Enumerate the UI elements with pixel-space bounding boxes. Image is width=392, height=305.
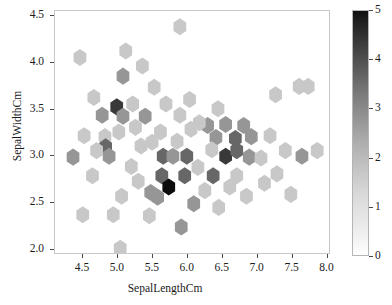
hex-bin	[243, 149, 256, 166]
hex-bin	[114, 240, 127, 253]
x-tick-mark	[257, 254, 258, 258]
hex-bin	[96, 107, 109, 124]
hex-bin	[180, 148, 193, 165]
colorbar-tick-label: 5	[375, 4, 381, 16]
hex-bin	[183, 91, 196, 108]
hex-bin	[173, 107, 186, 124]
hex-bin	[126, 96, 139, 113]
x-tick-mark	[152, 254, 153, 258]
hexbin-figure: 4.55.05.56.06.57.07.58.0 2.02.53.03.54.0…	[0, 0, 392, 305]
hex-bin	[219, 148, 232, 165]
hex-bin	[171, 133, 184, 150]
y-tick-mark	[50, 62, 54, 63]
x-tick-mark	[222, 254, 223, 258]
x-tick-mark	[82, 254, 83, 258]
hex-bin	[78, 127, 91, 144]
colorbar-tick-mark	[369, 158, 373, 159]
y-tick-mark	[50, 202, 54, 203]
y-tick-mark	[50, 249, 54, 250]
y-tick-label: 2.0	[10, 242, 44, 254]
y-axis-label: SepalWidthCm	[11, 66, 23, 186]
hex-bin	[178, 167, 191, 184]
x-tick-mark	[187, 254, 188, 258]
hex-bin	[136, 57, 149, 74]
hex-bin	[258, 175, 271, 192]
colorbar-tick-mark	[369, 10, 373, 11]
hex-bin	[148, 79, 161, 96]
hex-bin	[119, 42, 132, 59]
hex-bin	[212, 100, 225, 117]
hex-bin	[207, 167, 220, 184]
hex-bin	[74, 49, 87, 66]
plot-area	[54, 10, 330, 254]
hex-bin	[175, 218, 188, 235]
hex-bin	[212, 199, 225, 216]
hex-bin	[219, 116, 232, 133]
hex-bin	[129, 119, 142, 136]
colorbar-tick-label: 0	[375, 250, 381, 262]
colorbar: 012345	[352, 10, 392, 256]
hex-bin	[269, 86, 282, 103]
colorbar-tick-label: 1	[375, 201, 381, 213]
y-tick-label: 4.5	[10, 8, 44, 20]
hex-bin	[271, 165, 284, 182]
colorbar-tick-label: 4	[375, 53, 381, 65]
hexbin-layer	[55, 11, 329, 253]
hex-bin	[296, 148, 309, 165]
colorbar-tick-mark	[369, 207, 373, 208]
hex-bin	[264, 127, 277, 144]
y-tick-mark	[50, 109, 54, 110]
hex-bin	[187, 195, 200, 212]
colorbar-tick-mark	[369, 108, 373, 109]
hex-bin	[284, 186, 297, 203]
hex-bin	[107, 206, 120, 223]
y-tick-mark	[50, 155, 54, 156]
hex-bin	[115, 188, 128, 205]
hex-bin	[302, 78, 315, 95]
hex-bin	[125, 158, 138, 175]
hex-bin	[255, 150, 268, 167]
hex-bin	[132, 173, 145, 190]
hex-bin	[87, 89, 100, 106]
colorbar-tick-mark	[369, 59, 373, 60]
y-tick-label: 4.0	[10, 55, 44, 67]
hex-bin	[173, 18, 186, 35]
hex-bin	[167, 148, 180, 165]
hex-bin	[112, 123, 125, 140]
hex-bin	[311, 142, 324, 159]
hex-bin	[192, 159, 205, 176]
hex-bin	[139, 108, 152, 125]
y-tick-mark	[50, 15, 54, 16]
hex-bin	[76, 206, 89, 223]
colorbar-gradient	[352, 10, 369, 256]
hex-bin	[160, 96, 173, 113]
hex-bin	[279, 142, 292, 159]
x-axis-label: SepalLengthCm	[0, 282, 392, 294]
hex-bin	[143, 207, 156, 224]
x-tick-mark	[327, 254, 328, 258]
hex-bin	[86, 167, 99, 184]
hex-bin	[240, 188, 253, 205]
colorbar-tick-mark	[369, 256, 373, 257]
hex-bin	[135, 137, 148, 154]
colorbar-tick-label: 3	[375, 102, 381, 114]
colorbar-tick-label: 2	[375, 152, 381, 164]
hex-bin	[67, 149, 80, 166]
x-tick-label: 8.0	[307, 261, 347, 273]
x-axis-label-text: SepalLengthCm	[128, 282, 203, 294]
x-tick-mark	[117, 254, 118, 258]
x-tick-mark	[292, 254, 293, 258]
y-tick-label: 2.5	[10, 195, 44, 207]
hex-bin	[198, 182, 211, 199]
hex-bin	[117, 68, 130, 85]
